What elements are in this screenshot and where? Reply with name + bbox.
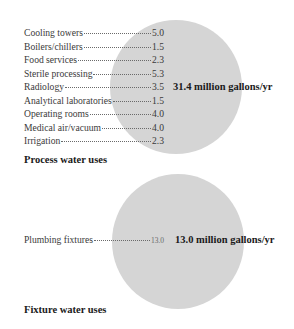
row-label: Boilers/chillers — [24, 40, 83, 53]
process-row: Sterile processing 5.3 — [24, 67, 164, 80]
row-value: 5.3 — [152, 67, 164, 80]
fixture-total-label: 13.0 million gallons/yr — [175, 233, 274, 246]
leader-dots — [61, 141, 151, 142]
row-label: Analytical laboratories — [24, 94, 112, 107]
process-row: Operating rooms 4.0 — [24, 107, 164, 120]
row-label: Plumbing fixtures — [24, 233, 93, 246]
process-row: Medical air/vacuum 4.0 — [24, 121, 164, 134]
row-label: Medical air/vacuum — [24, 121, 101, 134]
row-label: Radiology — [24, 80, 64, 93]
leader-dots — [84, 47, 151, 48]
row-label: Sterile processing — [24, 67, 92, 80]
leader-dots — [113, 101, 151, 102]
row-value: 1.5 — [152, 40, 164, 53]
process-row: Food services 2.3 — [24, 53, 164, 66]
leader-dots — [84, 33, 151, 34]
row-value: 13.0 — [151, 234, 164, 247]
fixture-row: Plumbing fixtures 13.0 — [24, 233, 164, 246]
process-row: Cooling towers 5.0 — [24, 26, 164, 39]
row-label: Operating rooms — [24, 107, 89, 120]
process-row: Boilers/chillers 1.5 — [24, 40, 164, 53]
leader-dots — [65, 87, 151, 88]
leader-dots — [78, 60, 151, 61]
row-value: 2.3 — [152, 53, 164, 66]
process-row: Analytical laboratories 1.5 — [24, 94, 164, 107]
row-label: Cooling towers — [24, 26, 83, 39]
process-row: Radiology 3.5 — [24, 80, 164, 93]
row-value: 4.0 — [152, 121, 164, 134]
leader-dots — [102, 128, 151, 129]
row-value: 2.3 — [152, 134, 164, 147]
row-value: 4.0 — [152, 107, 164, 120]
process-row: Irrigation 2.3 — [24, 134, 164, 147]
row-label: Food services — [24, 53, 77, 66]
row-value: 3.5 — [152, 80, 164, 93]
process-section-title: Process water uses — [24, 153, 107, 166]
process-total-label: 31.4 million gallons/yr — [173, 80, 272, 93]
leader-dots — [94, 240, 150, 241]
row-value: 5.0 — [152, 26, 164, 39]
row-value: 1.5 — [152, 94, 164, 107]
row-label: Irrigation — [24, 134, 60, 147]
leader-dots — [90, 114, 151, 115]
fixture-section-title: Fixture water uses — [24, 303, 106, 316]
leader-dots — [93, 74, 151, 75]
